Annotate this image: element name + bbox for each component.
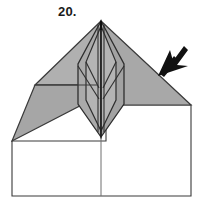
fold-direction-arrow [158, 46, 188, 77]
origami-diagram [0, 0, 202, 210]
origami-step-figure: 20. [0, 0, 202, 210]
